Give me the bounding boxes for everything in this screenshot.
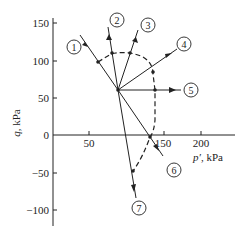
svg-text:6: 6 xyxy=(172,165,177,176)
svg-text:7: 7 xyxy=(137,203,142,214)
x-tick-label: 50 xyxy=(84,137,96,149)
y-tick-label: 150 xyxy=(33,17,50,29)
svg-text:4: 4 xyxy=(182,39,187,50)
svg-text:3: 3 xyxy=(146,20,151,31)
failure-point-4 xyxy=(151,70,155,74)
failure-point-5 xyxy=(153,88,157,92)
x-tick-label: 200 xyxy=(193,137,210,149)
y-tick-label: 100 xyxy=(33,55,50,67)
y-tick-label: 0 xyxy=(44,129,50,141)
arrow-icon xyxy=(106,34,112,40)
path-label-4: 4 xyxy=(177,37,191,51)
path-label-7: 7 xyxy=(132,201,146,215)
failure-point-2 xyxy=(110,51,114,55)
failure-point-1 xyxy=(96,60,100,64)
y-tick-label: 50 xyxy=(38,92,50,104)
svg-text:q, kPa: q, kPa xyxy=(10,109,22,137)
svg-text:2: 2 xyxy=(115,15,120,26)
svg-text:1: 1 xyxy=(72,42,77,53)
x-axis: 50 150 200 p′, kPa xyxy=(53,131,235,163)
path-label-5: 5 xyxy=(184,83,198,97)
svg-text:5: 5 xyxy=(189,85,194,96)
origin-point xyxy=(116,88,120,92)
y-tick-label: −100 xyxy=(26,204,49,216)
failure-point-6 xyxy=(148,135,152,139)
y-tick-label: −50 xyxy=(32,167,50,179)
arrow-icon xyxy=(169,87,176,93)
arrow-icon xyxy=(165,53,172,58)
path-label-2: 2 xyxy=(110,13,124,27)
x-axis-label: p′, kPa xyxy=(192,151,223,163)
stress-path-diagram: 150 100 50 0 −50 −100 q, kPa 50 150 200 … xyxy=(0,0,242,232)
path-labels: 1 2 3 4 5 6 7 xyxy=(67,13,198,215)
y-axis: 150 100 50 0 −50 −100 q, kPa xyxy=(10,17,57,226)
stress-path-7 xyxy=(118,90,136,198)
failure-point-3 xyxy=(128,51,132,55)
path-label-3: 3 xyxy=(141,18,155,32)
path-label-6: 6 xyxy=(167,163,181,177)
path-label-1: 1 xyxy=(67,40,81,54)
failure-point-7 xyxy=(131,169,135,173)
y-axis-label: q, kPa xyxy=(10,109,22,137)
